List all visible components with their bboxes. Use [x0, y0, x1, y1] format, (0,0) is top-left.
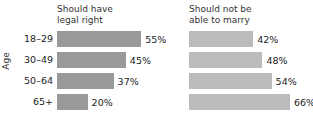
bar-row: 48%: [160, 51, 313, 71]
panel-title-right: Should not beable to marry: [189, 4, 252, 26]
bar-area: 30–49 45%: [57, 51, 160, 71]
bar-area: 50–64 37%: [57, 72, 160, 92]
panel-should-have-legal-right: Should havelegal right 18–29 55% 30–49 4…: [0, 0, 160, 114]
bar-row: 66%: [160, 93, 313, 113]
category-label: 30–49: [3, 54, 53, 65]
bar-value-label: 48%: [266, 55, 287, 66]
bar-value-label: 54%: [276, 76, 297, 87]
bar-row: 54%: [160, 72, 313, 92]
category-label: 65+: [3, 96, 53, 107]
bar-area: 54%: [189, 72, 313, 92]
panel-should-not-be-able-to-marry: Should not beable to marry 42% 48% 54%: [160, 0, 313, 114]
bar-row: 30–49 45%: [0, 51, 160, 71]
bar-value-label: 20%: [92, 97, 113, 108]
panel-title-left-line1: Should have: [57, 4, 113, 14]
bar-row: 18–29 55%: [0, 30, 160, 50]
bar-area: 48%: [189, 51, 313, 71]
bar: [57, 94, 88, 110]
category-label: 18–29: [3, 33, 53, 44]
bar-value-label: 42%: [257, 34, 278, 45]
bar-rows-left: 18–29 55% 30–49 45% 50–64 37%: [0, 30, 160, 114]
panel-title-right-line2: able to marry: [189, 15, 250, 25]
bar-value-label: 37%: [118, 76, 139, 87]
bar-row: 42%: [160, 30, 313, 50]
bar-rows-right: 42% 48% 54% 66%: [160, 30, 313, 114]
grouped-bar-chart: Age Should havelegal right 18–29 55% 30–…: [0, 0, 313, 114]
bar-area: 66%: [189, 93, 313, 113]
panel-title-left: Should havelegal right: [57, 4, 113, 26]
bar-value-label: 45%: [130, 55, 151, 66]
bar: [57, 73, 114, 89]
bar-row: 50–64 37%: [0, 72, 160, 92]
bar-area: 18–29 55%: [57, 30, 160, 50]
bar-area: 65+ 20%: [57, 93, 160, 113]
panel-title-left-line2: legal right: [57, 15, 103, 25]
bar: [57, 52, 126, 68]
bar: [57, 31, 141, 47]
category-label: 50–64: [3, 75, 53, 86]
bar: [189, 73, 272, 89]
bar-value-label: 66%: [294, 97, 313, 108]
bar: [189, 31, 253, 47]
bar: [189, 94, 290, 110]
bar: [189, 52, 262, 68]
bar-area: 42%: [189, 30, 313, 50]
panel-title-right-line1: Should not be: [189, 4, 252, 14]
bar-row: 65+ 20%: [0, 93, 160, 113]
